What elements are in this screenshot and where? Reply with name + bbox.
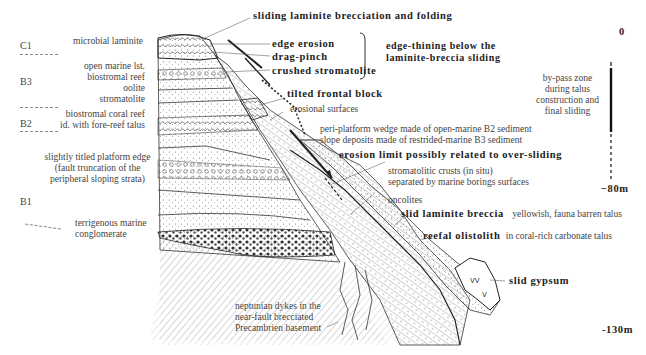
label-tilted-frontal-block: tilted frontal block — [287, 88, 383, 99]
unit-label-b3: B3 — [20, 76, 32, 87]
label-slid-gypsum: slid gypsum — [509, 275, 569, 286]
label-edge-thinning-2: laminite-breccia sliding — [386, 52, 501, 63]
label-fault-truncation: (fault truncation of the — [40, 163, 155, 174]
label-stromatolitic-crusts: stromatolitic crusts (in situ) — [388, 166, 493, 177]
label-precambrien-basement: Precambrien basement — [235, 323, 321, 334]
label-near-fault: near-fault brecciated — [235, 312, 313, 323]
label-erosional-surfaces: erosional surfaces — [290, 104, 358, 115]
label-slope-deposits: slope deposits made of restrided-marine … — [320, 135, 522, 146]
unit-label-c1: C1 — [20, 40, 32, 51]
svg-text:VV: VV — [470, 277, 480, 285]
label-biostromal-coral-reef: biostromal coral reef — [66, 109, 145, 120]
label-stromatolite: stromatolite — [100, 94, 145, 105]
label-biostromal-reef: biostromal reef — [87, 72, 145, 83]
label-peripheral-strata: peripheral sloping strata) — [40, 174, 155, 185]
label-neptunian-dykes: neptunian dykes in the — [235, 301, 321, 312]
depth-tick-0: 0 — [619, 26, 625, 37]
unit-divider — [20, 54, 58, 55]
label-erosion-limit: erosion limit possibly related to over-s… — [339, 149, 562, 160]
label-platform-edge: slightly titled platform edge — [40, 152, 155, 163]
label-terrigenous-marine: terrigenous marine — [75, 218, 147, 229]
label-reefal-olistolith: reefal olistolith in coral-rich carbonat… — [423, 230, 612, 242]
label-oncolites: oncolites — [388, 195, 422, 206]
depth-tick-80m: −80m — [601, 183, 629, 194]
unit-divider — [20, 131, 58, 132]
label-olistolith-desc: in coral-rich carbonate talus — [506, 231, 612, 241]
label-peri-platform-wedge: peri-platform wedge made of open-marine … — [320, 124, 532, 135]
label-marine-borings: separated by marine borings surfaces — [388, 177, 529, 188]
label-slid-breccia-desc: yellowish, fauna barren talus — [512, 209, 622, 219]
label-crushed-stromatolite: crushed stromatolite — [272, 65, 376, 76]
label-slid-breccia-bold: slid laminite breccia — [401, 208, 504, 219]
label-construction: construction and — [530, 95, 605, 106]
label-drag-pinch: drag-pinch — [272, 51, 328, 62]
label-conglomerate: conglomerate — [75, 229, 127, 240]
label-open-marine-lst: open marine lst. — [84, 61, 145, 72]
unit-label-b1: B1 — [20, 196, 32, 207]
label-during-talus: during talus — [530, 84, 605, 95]
label-edge-erosion: edge erosion — [272, 38, 335, 49]
label-microbial-laminite: microbial laminite — [73, 36, 143, 47]
label-slid-laminite-breccia: slid laminite breccia yellowish, fauna b… — [401, 208, 622, 220]
label-olistolith-bold: reefal olistolith — [423, 230, 500, 241]
label-sliding-laminite: sliding laminite brecciation and folding — [253, 10, 452, 21]
label-bypass-zone: by-pass zone — [530, 73, 605, 84]
depth-tick-130m: -130m — [602, 324, 633, 335]
label-oolite: oolite — [123, 83, 145, 94]
label-final-sliding: final sliding — [530, 106, 605, 117]
label-edge-thinning-1: edge-thining below the — [386, 40, 496, 51]
svg-text:V: V — [482, 291, 487, 299]
label-fore-reef-talus: id. with fore-reef talus — [60, 120, 145, 131]
unit-label-b2: B2 — [20, 118, 32, 129]
unit-divider — [20, 107, 58, 108]
